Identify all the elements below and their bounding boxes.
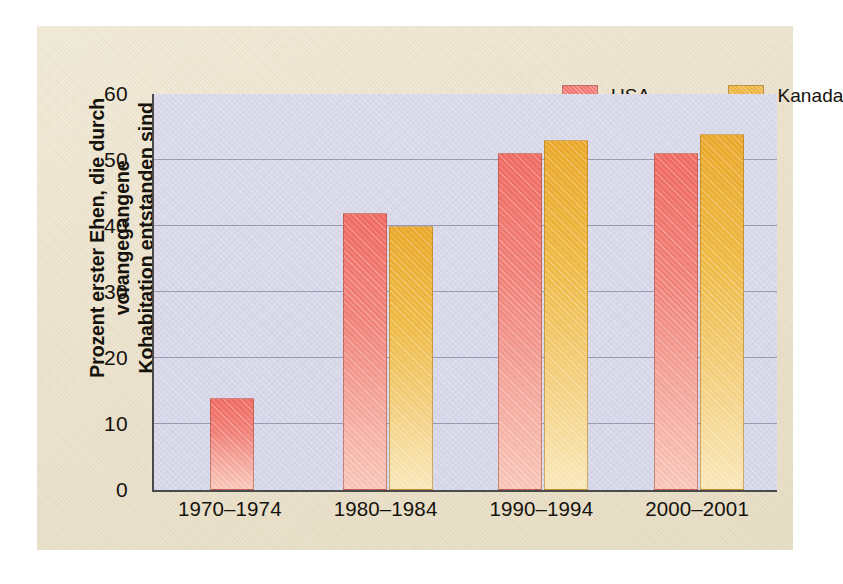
- bar-kanada-2000-2001: [700, 134, 744, 490]
- y-tick-label-50: 50: [104, 148, 128, 172]
- legend-label-kanada: Kanada: [777, 85, 843, 107]
- bar-usa-1990-1994: [498, 153, 542, 490]
- y-tick-label-10: 10: [104, 412, 128, 436]
- x-axis-tick-labels: 1970–19741980–19841990–19942000–2001: [152, 497, 775, 531]
- x-tick-label-0: 1970–1974: [178, 497, 282, 521]
- y-tick-label-30: 30: [104, 280, 128, 304]
- plot-area: [152, 94, 777, 492]
- y-tick-label-0: 0: [116, 478, 128, 502]
- x-tick-label-1: 1980–1984: [334, 497, 438, 521]
- bar-usa-1980-1984: [343, 213, 387, 490]
- y-axis-tick-labels: 0102030405060: [0, 94, 140, 490]
- x-tick-label-2: 1990–1994: [490, 497, 594, 521]
- bar-usa-1970-1974: [210, 398, 254, 490]
- y-tick-label-60: 60: [104, 82, 128, 106]
- y-tick-label-40: 40: [104, 214, 128, 238]
- bar-usa-2000-2001: [654, 153, 698, 490]
- bar-kanada-1990-1994: [544, 140, 588, 490]
- bar-kanada-1980-1984: [389, 226, 433, 490]
- x-tick-label-3: 2000–2001: [645, 497, 749, 521]
- y-tick-label-20: 20: [104, 346, 128, 370]
